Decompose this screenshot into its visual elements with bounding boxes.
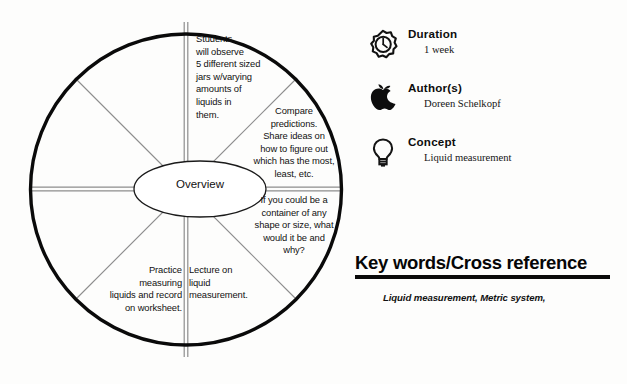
meta-row-duration: Duration 1 week — [366, 26, 616, 80]
keywords-section: Key words/Cross reference Liquid measure… — [355, 252, 613, 303]
apple-icon — [366, 82, 400, 116]
stopwatch-icon — [366, 28, 400, 62]
meta-body-duration: Duration 1 week — [408, 26, 457, 57]
meta-row-concept: Concept Liquid measurement — [366, 134, 616, 188]
keywords-heading: Key words/Cross reference — [355, 252, 613, 274]
meta-title-concept: Concept — [408, 134, 511, 149]
lesson-meta-list: Duration 1 week Author(s) Doreen Schelko… — [366, 26, 616, 188]
overview-wheel-diagram: Overview Students will observe 5 differe… — [0, 0, 360, 384]
keywords-underline — [355, 275, 610, 279]
lightbulb-icon — [366, 136, 400, 170]
wheel-segment-compare: Compare predictions. Share ideas on how … — [246, 105, 342, 181]
meta-body-author: Author(s) Doreen Schelkopf — [408, 80, 501, 111]
meta-value-duration: 1 week — [424, 43, 457, 57]
wheel-segment-container: If you could be a container of any shape… — [246, 194, 342, 257]
meta-row-author: Author(s) Doreen Schelkopf — [366, 80, 616, 134]
meta-title-duration: Duration — [408, 26, 457, 41]
page-canvas: Overview Students will observe 5 differe… — [0, 0, 627, 384]
keywords-value: Liquid measurement, Metric system, — [383, 292, 613, 303]
wheel-graphics — [0, 0, 360, 384]
wheel-segment-lecture: Lecture on liquid measurement. — [189, 264, 271, 302]
meta-title-author: Author(s) — [408, 80, 501, 95]
meta-value-concept: Liquid measurement — [424, 151, 511, 165]
meta-body-concept: Concept Liquid measurement — [408, 134, 511, 165]
meta-value-author: Doreen Schelkopf — [424, 97, 501, 111]
wheel-segment-practice: Practice measuring liquids and record on… — [100, 264, 182, 314]
